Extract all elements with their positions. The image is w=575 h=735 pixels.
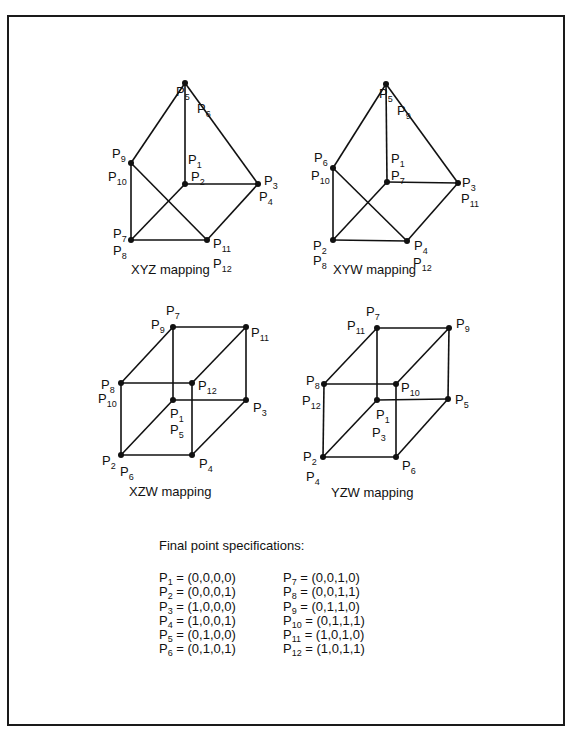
specifications-left-column: P1 = (0,0,0,0)P2 = (0,0,0,1)P3 = (1,0,0,…	[159, 571, 236, 657]
vertex-dot	[445, 396, 451, 402]
vertex-label-p7: P7	[113, 226, 127, 244]
vertex-label-p6: P6	[120, 464, 134, 482]
specifications-title: Final point specifications:	[159, 538, 304, 553]
vertex-dot	[320, 454, 326, 460]
vertex-label-p4: P4	[199, 456, 213, 474]
vertex-dot	[404, 238, 410, 244]
vertex-dot	[189, 380, 195, 386]
vertex-dot	[189, 452, 195, 458]
spec-row-p11: P11 = (1,0,1,0)	[283, 628, 365, 642]
vertex-label-p10: P10	[108, 169, 127, 187]
vertex-label-p4: P4	[259, 189, 273, 207]
vertex-dot	[446, 325, 452, 331]
caption-xyw: XYW mapping	[333, 262, 416, 277]
spec-row-p4: P4 = (1,0,0,1)	[159, 614, 236, 628]
vertex-dot	[384, 179, 390, 185]
vertex-label-p6: P6	[197, 101, 211, 119]
vertex-label-p12: P12	[198, 378, 217, 396]
vertex-label-p5: P5	[455, 392, 469, 410]
spec-row-p6: P6 = (0,1,0,1)	[159, 642, 236, 656]
spec-row-p12: P12 = (1,0,1,1)	[283, 642, 365, 656]
vertex-label-p9: P9	[456, 316, 470, 334]
vertex-dot	[393, 381, 399, 387]
diagram-xyw: P5P9P6P10P1P7P3P11P2P8P4P12	[311, 81, 479, 273]
vertex-dot	[330, 165, 336, 171]
vertex-dot	[455, 180, 461, 186]
vertex-label-p4: P4	[306, 469, 320, 487]
vertex-label-p12: P12	[302, 393, 321, 411]
edge	[448, 328, 449, 399]
vertex-label-p1: P1	[376, 407, 390, 425]
specifications-right-column: P7 = (0,0,1,0)P8 = (0,0,1,1)P9 = (0,1,1,…	[283, 571, 365, 657]
vertex-label-p4: P4	[414, 238, 428, 256]
vertex-dot	[243, 397, 249, 403]
caption-xzw: XZW mapping	[129, 484, 211, 499]
vertex-label-p10: P10	[401, 380, 420, 398]
vertex-label-p11: P11	[251, 325, 269, 343]
vertex-label-p7: P7	[166, 303, 180, 321]
vertex-label-p9: P9	[151, 317, 165, 335]
edge	[396, 399, 448, 457]
vertex-label-p3: P3	[372, 425, 386, 443]
vertex-label-p7: P7	[366, 304, 380, 322]
edge	[324, 328, 377, 384]
edge	[333, 240, 407, 241]
vertex-label-p8: P8	[113, 243, 127, 261]
vertex-dot	[393, 454, 399, 460]
vertex-label-p1: P1	[188, 152, 202, 170]
caption-xyz: XYZ mapping	[131, 262, 210, 277]
diagram-xyz: P5P6P9P10P1P2P3P4P7P8P11P12	[108, 80, 278, 274]
edge	[207, 184, 258, 240]
vertex-label-p11: P11	[213, 236, 231, 254]
vertex-label-p1: P1	[391, 151, 405, 169]
edge	[323, 400, 377, 457]
vertex-dot	[204, 237, 210, 243]
edge	[333, 182, 387, 240]
edge	[377, 399, 448, 400]
vertex-dot	[170, 324, 176, 330]
edge	[121, 400, 173, 455]
spec-row-p8: P8 = (0,0,1,1)	[283, 585, 365, 599]
edge	[407, 183, 458, 241]
vertex-label-p6: P6	[314, 150, 328, 168]
vertex-dot	[128, 237, 134, 243]
vertex-dot	[182, 181, 188, 187]
spec-row-p1: P1 = (0,0,0,0)	[159, 571, 236, 585]
vertex-label-p2: P2	[102, 453, 116, 471]
edge	[121, 327, 173, 383]
vertex-dot	[255, 181, 261, 187]
spec-row-p5: P5 = (0,1,0,0)	[159, 628, 236, 642]
edge	[192, 327, 246, 383]
vertex-label-p9: P9	[112, 146, 126, 164]
diagram-xzw: P7P9P11P8P10P12P1P5P3P2P6P4	[98, 303, 269, 482]
edge	[396, 328, 449, 384]
vertex-label-p3: P3	[253, 400, 267, 418]
vertex-dot	[374, 325, 380, 331]
vertex-dot	[243, 324, 249, 330]
edge	[323, 384, 324, 457]
vertex-label-p9: P9	[397, 103, 411, 121]
spec-row-p7: P7 = (0,0,1,0)	[283, 571, 365, 585]
edge	[131, 184, 185, 240]
vertex-dot	[170, 397, 176, 403]
vertex-dot	[330, 237, 336, 243]
vertex-label-p12: P12	[213, 256, 232, 274]
vertex-dot	[128, 160, 134, 166]
vertex-label-p6: P6	[402, 458, 416, 476]
vertex-label-p2: P2	[303, 449, 317, 467]
caption-yzw: YZW mapping	[331, 485, 413, 500]
spec-row-p2: P2 = (0,0,0,1)	[159, 585, 236, 599]
vertex-dot	[374, 397, 380, 403]
spec-row-p3: P3 = (1,0,0,0)	[159, 600, 236, 614]
edge	[192, 400, 246, 455]
vertex-label-p5: P5	[170, 422, 184, 440]
vertex-label-p10: P10	[311, 168, 330, 186]
vertex-label-p8: P8	[306, 373, 320, 391]
vertex-dot	[118, 380, 124, 386]
vertex-dot	[118, 452, 124, 458]
vertex-dot	[321, 381, 327, 387]
vertex-label-p11: P11	[461, 191, 479, 209]
vertex-label-p7: P7	[391, 168, 405, 186]
diagram-yzw: P7P11P9P8P12P10P1P3P5P2P4P6	[302, 304, 470, 487]
spec-row-p9: P9 = (0,1,1,0)	[283, 600, 365, 614]
